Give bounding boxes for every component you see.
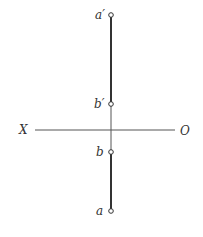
point-b (109, 150, 114, 155)
label-o: O (180, 124, 190, 138)
label-b: b (96, 145, 104, 159)
point-a-prime (109, 13, 114, 18)
label-x: X (18, 123, 28, 137)
label-a: a (96, 204, 103, 218)
label-b-prime: b′ (94, 97, 105, 111)
point-a (109, 209, 114, 214)
projection-diagram: X O a′ b′ b a (0, 0, 203, 237)
label-a-prime: a′ (95, 8, 105, 22)
point-b-prime (109, 102, 114, 107)
